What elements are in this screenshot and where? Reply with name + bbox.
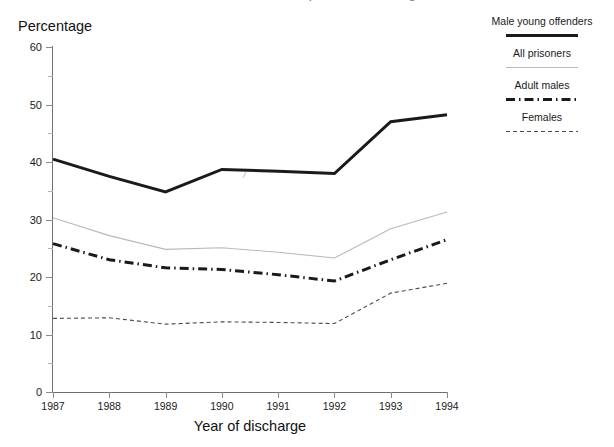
legend-entry-females[interactable]: Females xyxy=(470,110,614,135)
chart-container: Reconviction rates of prisoners discharg… xyxy=(0,0,614,447)
legend-label: Females xyxy=(470,110,614,124)
legend-label: All prisoners xyxy=(470,46,614,60)
legend-label: Male young offenders xyxy=(470,14,614,28)
series-line-females xyxy=(53,283,447,324)
legend-entry-male-young-offenders[interactable]: Male young offenders xyxy=(470,14,614,39)
legend-swatch-dash-dot-bold xyxy=(505,96,579,103)
legend-swatch-thin-solid xyxy=(505,64,579,71)
legend-swatch-thick-solid xyxy=(505,32,579,39)
legend-entry-all-prisoners[interactable]: All prisoners xyxy=(470,46,614,71)
series-line-adult-males xyxy=(53,240,447,281)
series-line-all-prisoners xyxy=(53,212,447,258)
legend-entry-adult-males[interactable]: Adult males xyxy=(470,78,614,103)
chart-legend: Male young offendersAll prisonersAdult m… xyxy=(470,14,614,142)
legend-label: Adult males xyxy=(470,78,614,92)
series-line-male-young-offenders xyxy=(53,115,447,192)
legend-swatch-fine-dotted xyxy=(505,128,579,135)
